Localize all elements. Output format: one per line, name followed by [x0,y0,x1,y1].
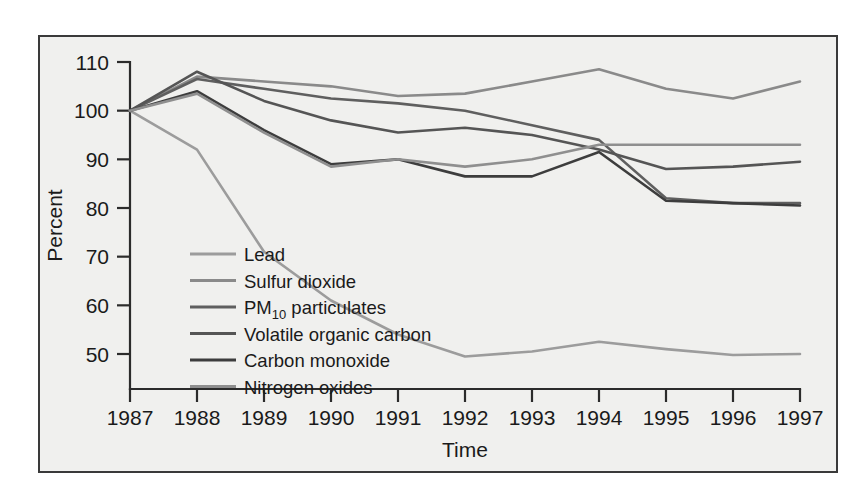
legend-label-main: Carbon monoxide [244,350,390,371]
legend-label-tail: particulates [286,297,386,318]
series-lines [130,69,800,356]
y-tick-label: 50 [86,343,109,366]
legend-label-main: Sulfur dioxide [244,271,356,292]
x-tick-label: 1992 [442,406,489,429]
figure-root: 5060708090100110198719881989199019911992… [0,0,863,503]
legend-label: Volatile organic carbon [244,324,431,345]
y-tick-label: 90 [86,148,109,171]
y-tick-label: 110 [76,51,109,74]
legend-label: Nitrogen oxides [244,377,373,398]
x-tick-label: 1991 [375,406,422,429]
series-line-lead [130,111,800,357]
y-tick-label: 70 [86,245,109,268]
chart-panel: 5060708090100110198719881989199019911992… [38,35,838,473]
y-axis-title: Percent [43,189,66,262]
series-line-carbon-monoxide [130,91,800,205]
legend-label-main: Lead [244,244,285,265]
x-axis-title: Time [442,438,488,461]
tick-labels: 5060708090100110198719881989199019911992… [74,51,823,430]
x-tick-label: 1996 [710,406,757,429]
y-tick-label: 80 [86,197,109,220]
legend-label: Carbon monoxide [244,350,390,371]
series-line-volatile-organic-carbon [130,72,800,169]
x-tick-label: 1994 [576,406,623,429]
legend-label-main: Nitrogen oxides [244,377,373,398]
x-tick-label: 1990 [308,406,355,429]
legend-label-subscript: 10 [272,307,286,322]
legend-label: Sulfur dioxide [244,271,356,292]
series-line-nitrogen-oxides [130,94,800,167]
y-tick-label: 60 [86,294,109,317]
x-tick-label: 1993 [509,406,556,429]
x-tick-label: 1989 [241,406,288,429]
series-line-sulfur-dioxide [130,69,800,110]
chart-legend: LeadSulfur dioxidePM10 particulatesVolat… [190,244,431,398]
legend-label: Lead [244,244,285,265]
legend-label-main: Volatile organic carbon [244,324,431,345]
series-line-pm10-particulates [130,79,800,203]
x-tick-label: 1988 [174,406,221,429]
y-tick-label: 100 [74,99,109,122]
x-tick-label: 1995 [643,406,690,429]
line-chart: 5060708090100110198719881989199019911992… [40,37,836,471]
legend-label-main: PM [244,297,272,318]
x-tick-label: 1987 [107,406,154,429]
x-tick-label: 1997 [777,406,824,429]
